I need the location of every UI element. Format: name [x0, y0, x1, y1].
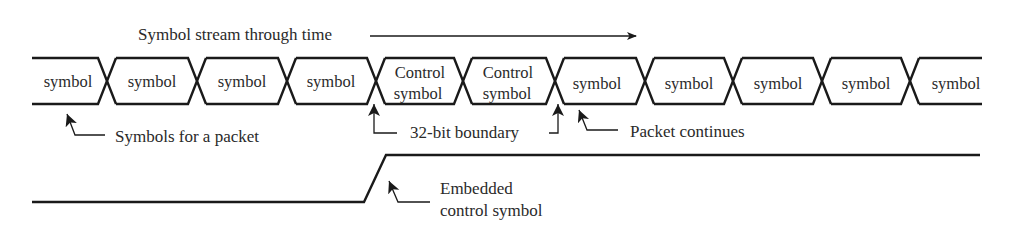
symbol-labels: symbol symbol symbol symbol Control symb… — [44, 63, 981, 103]
packet-continues-callout: Packet continues — [579, 110, 745, 141]
boundary-right-arrow-icon — [549, 104, 558, 133]
symbol-cell: symbol — [218, 72, 267, 91]
packet-symbols-callout: Symbols for a packet — [67, 114, 259, 146]
symbol-cell: symbol — [44, 72, 93, 91]
symbol-cell: symbol — [307, 72, 356, 91]
control-symbol-cell: Control — [395, 63, 446, 82]
symbol-stream-diagram: Symbol stream through time symbol symbol… — [0, 0, 1010, 234]
control-symbol-cell: symbol — [394, 84, 443, 103]
boundary-label: 32-bit boundary — [410, 123, 520, 142]
boundary-left-arrow-icon — [374, 104, 397, 133]
control-symbol-cell: Control — [483, 63, 534, 82]
embedded-label-line2: control symbol — [440, 201, 543, 220]
symbol-cell: symbol — [128, 72, 177, 91]
callout-arrow-icon — [389, 181, 430, 202]
diagram-title: Symbol stream through time — [138, 25, 332, 44]
symbol-cell: symbol — [932, 74, 981, 93]
control-symbol-cell: symbol — [483, 84, 532, 103]
symbol-cell: symbol — [573, 74, 622, 93]
symbol-cell: symbol — [665, 74, 714, 93]
symbol-cell: symbol — [842, 74, 891, 93]
packet-continues-label: Packet continues — [630, 122, 745, 141]
embedded-control-callout: Embedded control symbol — [389, 179, 543, 220]
packet-symbols-label: Symbols for a packet — [115, 127, 259, 146]
callout-arrow-icon — [579, 110, 618, 130]
callout-arrow-icon — [67, 114, 105, 135]
boundary-callout: 32-bit boundary — [374, 104, 558, 142]
embedded-label-line1: Embedded — [440, 179, 513, 198]
symbol-cell: symbol — [754, 74, 803, 93]
